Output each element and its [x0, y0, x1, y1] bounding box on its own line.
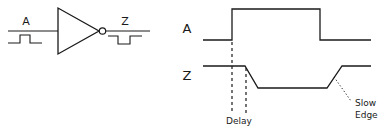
input-pulse-waveform [8, 35, 42, 43]
timing-diagram-panel: A Z Delay Slow Edge [183, 9, 379, 126]
delay-annotation-label: Delay [226, 116, 252, 126]
gate-triangle [58, 8, 99, 54]
waveform-trace-a [203, 9, 371, 40]
waveform-label-z: Z [183, 68, 192, 83]
slow-edge-annotation-line2: Edge [355, 110, 378, 120]
symbol-input-label: A [22, 15, 30, 28]
waveform-trace-z [203, 66, 371, 88]
figure-canvas: A Z A Z [0, 0, 389, 132]
figure-root: A Z A Z [0, 0, 389, 132]
slow-edge-leader-line [334, 77, 351, 101]
inverter-symbol-panel: A Z [8, 8, 150, 54]
output-pulse-waveform [108, 36, 142, 44]
symbol-output-label: Z [121, 15, 129, 28]
waveform-label-a: A [183, 21, 192, 36]
slow-edge-annotation-line1: Slow [355, 98, 376, 108]
inversion-bubble-icon [99, 28, 105, 34]
